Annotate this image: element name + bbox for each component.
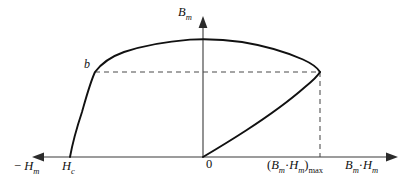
x-axis-left-label: − Hm [14,160,39,173]
x-axis-left-label-subscript: m [33,166,39,176]
coercivity-label-subscript: c [71,166,75,176]
max-energy-product-base1: B [271,158,279,172]
max-energy-product-max-subscript: max [308,165,323,175]
x-axis-left-label-base: H [24,159,33,173]
curve-diagram-canvas [0,0,411,180]
x-axis-right-label: Bm·Hm [345,159,378,172]
y-axis-arrowhead [199,16,208,28]
y-axis-label: Bm [178,6,192,19]
demagnetization-curve [70,39,320,157]
x-axis-right-label-base2: H [363,158,372,172]
x-axis-left-label-sign: − [14,159,24,173]
energy-product-curve [203,72,320,157]
y-axis-label-base: B [178,5,186,19]
max-energy-product-label: (Bm·Hm)max [267,159,323,172]
x-axis-right-label-subscript2: m [372,165,378,175]
knee-point-label: b [84,58,90,70]
coercivity-label: Hc [62,160,75,173]
max-energy-product-base2: H [289,158,298,172]
x-axis-right-arrowhead [386,153,398,162]
x-axis-right-label-base1: B [345,158,353,172]
origin-label: 0 [206,158,212,171]
figure-container: Bm b 0 − Hm Hc (Bm·Hm)max Bm·Hm [0,0,411,180]
coercivity-label-base: H [62,159,71,173]
y-axis-label-subscript: m [186,12,192,22]
